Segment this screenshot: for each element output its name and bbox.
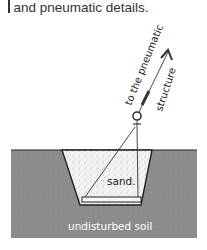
label-undisturbed-soil: undisturbed soil bbox=[68, 220, 152, 232]
anchor-diagram: to the pneumatic structure sand. undistu… bbox=[0, 0, 207, 250]
ring-icon bbox=[133, 112, 141, 120]
anchor-plate bbox=[82, 197, 141, 202]
label-sand: sand. bbox=[107, 175, 136, 187]
label-structure: structure bbox=[153, 66, 177, 113]
